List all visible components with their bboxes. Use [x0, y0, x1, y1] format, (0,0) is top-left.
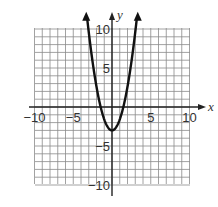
x-tick-label: −5 [66, 110, 81, 125]
y-tick-label: −5 [95, 139, 110, 154]
x-axis-arrow-icon [198, 104, 206, 110]
y-axis-arrow-icon [109, 12, 115, 20]
x-tick-label: 10 [182, 110, 196, 125]
y-axis-label: y [115, 7, 123, 22]
coordinate-graph: −10−5510105−5−10 x y [0, 0, 218, 207]
x-tick-label: 5 [147, 110, 154, 125]
y-tick-label: 5 [103, 61, 110, 76]
y-tick-label: −10 [88, 178, 110, 193]
curve-arrow-left-icon [82, 12, 90, 21]
x-tick-label: −10 [23, 110, 45, 125]
x-axis-label: x [207, 99, 214, 114]
axes [29, 12, 206, 196]
curve-arrow-right-icon [134, 12, 142, 21]
y-tick-label: 10 [96, 22, 110, 37]
